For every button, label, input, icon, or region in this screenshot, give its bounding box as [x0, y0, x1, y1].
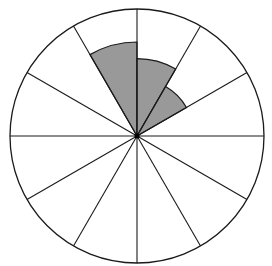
polar-sector-chart: [0, 0, 272, 266]
center-dot: [135, 134, 140, 139]
spoke-line: [137, 136, 247, 200]
shaded-sectors: [90, 42, 186, 136]
spoke-line: [137, 136, 201, 246]
spoke-line: [74, 136, 138, 246]
spoke-line: [27, 136, 137, 200]
